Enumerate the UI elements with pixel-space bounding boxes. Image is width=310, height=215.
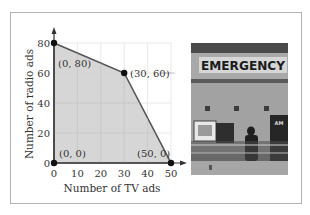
y-tick-80: 80 bbox=[37, 38, 50, 49]
y-tick-60: 60 bbox=[37, 68, 50, 79]
x-axis-label: Number of TV ads bbox=[63, 182, 160, 194]
x-tick-10: 10 bbox=[71, 168, 84, 179]
x-axis-arrow-icon bbox=[180, 161, 187, 166]
annotation-0-0: (0, 0) bbox=[59, 148, 86, 159]
door-sign-text: AM bbox=[275, 120, 284, 126]
emergency-entrance-photo: EMERGENCY AM bbox=[191, 43, 288, 175]
x-tick-50: 50 bbox=[165, 168, 178, 179]
annotation-30-60: (30, 60) bbox=[130, 68, 170, 79]
annotation-0-80: (0, 80) bbox=[58, 58, 91, 69]
x-tick-20: 20 bbox=[94, 168, 107, 179]
y-axis-label: Number of radio ads bbox=[23, 49, 35, 159]
y-tick-40: 40 bbox=[37, 98, 50, 109]
y-tick-0: 0 bbox=[44, 158, 50, 169]
y-tick-20: 20 bbox=[37, 128, 50, 139]
x-tick-30: 30 bbox=[118, 168, 131, 179]
x-tick-0: 0 bbox=[51, 168, 57, 179]
x-tick-40: 40 bbox=[141, 168, 154, 179]
feasible-region-chart: 80 60 40 20 0 0 10 20 30 40 50 Number of… bbox=[0, 0, 190, 215]
y-axis-arrow-icon bbox=[52, 27, 57, 34]
annotation-50-0: (50, 0) bbox=[137, 148, 170, 159]
emergency-sign-text: EMERGENCY bbox=[201, 58, 286, 73]
